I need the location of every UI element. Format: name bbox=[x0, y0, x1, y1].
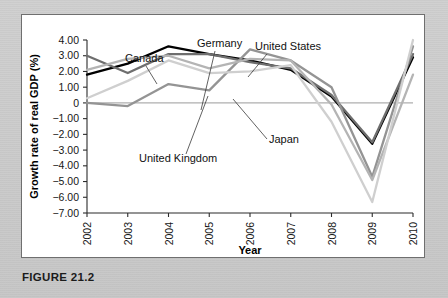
x-tick-label: 2008 bbox=[326, 222, 338, 246]
series-label-germany: Germany bbox=[197, 37, 243, 49]
y-tick-label: −5.00 bbox=[52, 175, 79, 187]
series-line-germany bbox=[87, 46, 413, 177]
y-tick-label: 1.00 bbox=[59, 81, 80, 93]
series-line-japan bbox=[87, 40, 413, 202]
series-label-united-states: United States bbox=[255, 40, 322, 52]
series-line-canada bbox=[87, 54, 413, 142]
y-axis-title: Growth rate of real GDP (%) bbox=[28, 54, 40, 199]
x-axis-tick-labels: 200220032004200520062007200820092010 bbox=[81, 222, 419, 246]
x-tick-label: 2010 bbox=[407, 222, 419, 246]
x-axis-ticks bbox=[87, 213, 413, 217]
chart-axes bbox=[83, 40, 413, 217]
x-tick-label: 2009 bbox=[366, 222, 378, 246]
series-label-canada: Canada bbox=[125, 52, 164, 64]
y-axis-ticks bbox=[83, 40, 87, 213]
annotation-leader-line bbox=[233, 99, 267, 139]
series-label-japan: Japan bbox=[269, 133, 299, 145]
x-tick-label: 2004 bbox=[163, 222, 175, 246]
annotation-leader-line bbox=[248, 54, 267, 77]
x-tick-label: 2005 bbox=[203, 222, 215, 246]
x-axis-title: Year bbox=[238, 244, 262, 256]
y-tick-label: −1.00 bbox=[52, 112, 79, 124]
annotation-leader-line bbox=[186, 96, 208, 154]
data-series-group bbox=[87, 40, 413, 202]
y-tick-label: 2.00 bbox=[59, 65, 80, 77]
y-tick-label: 0 bbox=[73, 97, 79, 109]
gdp-growth-line-chart: 4.003.002.001.000−1.00−2.00−3.00−4.00−5.… bbox=[21, 14, 425, 258]
figure-caption: FIGURE 21.2 bbox=[22, 271, 94, 283]
y-tick-label: 4.00 bbox=[59, 34, 80, 46]
x-tick-label: 2007 bbox=[285, 222, 297, 246]
series-label-united-kingdom: United Kingdom bbox=[139, 152, 217, 164]
y-tick-label: −4.00 bbox=[52, 159, 79, 171]
y-tick-label: −7.00 bbox=[52, 207, 79, 219]
y-tick-label: −3.00 bbox=[52, 144, 79, 156]
y-tick-label: −2.00 bbox=[52, 128, 79, 140]
x-tick-label: 2002 bbox=[81, 222, 93, 246]
x-tick-label: 2006 bbox=[244, 222, 256, 246]
y-tick-label: −6.00 bbox=[52, 191, 79, 203]
annotation-leader-line bbox=[201, 51, 215, 110]
y-tick-label: 3.00 bbox=[59, 49, 80, 61]
x-tick-label: 2003 bbox=[122, 222, 134, 246]
y-axis-tick-labels: 4.003.002.001.000−1.00−2.00−3.00−4.00−5.… bbox=[52, 34, 79, 219]
